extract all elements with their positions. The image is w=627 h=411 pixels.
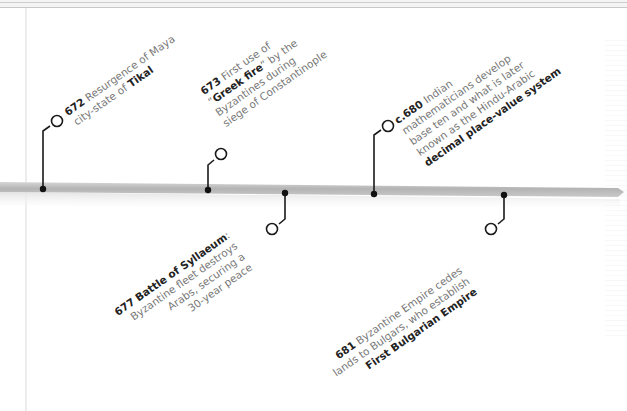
connector-c680 bbox=[374, 121, 394, 195]
timeline-dot-677 bbox=[282, 190, 288, 196]
connector-672 bbox=[43, 116, 63, 190]
connector-673 bbox=[208, 149, 227, 191]
timeline-dot-672 bbox=[40, 186, 46, 192]
timeline-dot-c680 bbox=[371, 191, 377, 197]
timeline-dot-673 bbox=[205, 187, 211, 193]
timeline-dot-681 bbox=[501, 192, 507, 198]
